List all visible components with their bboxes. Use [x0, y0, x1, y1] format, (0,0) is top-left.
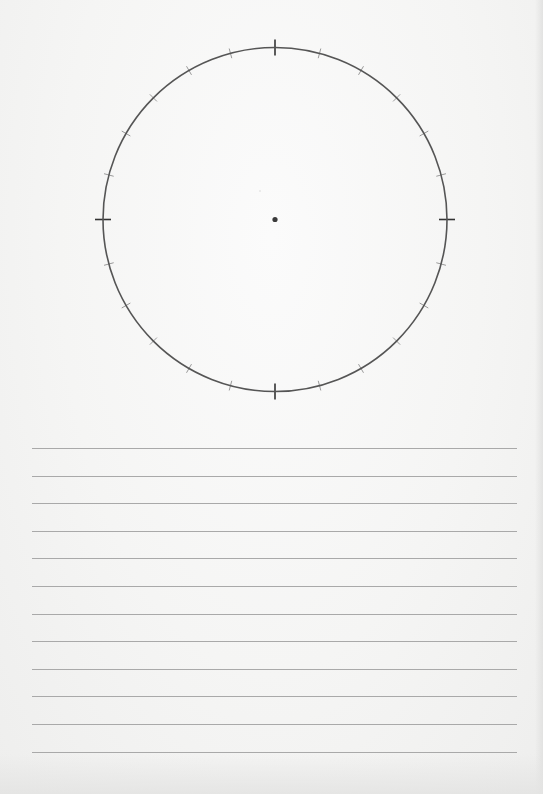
writing-line [32, 614, 517, 615]
writing-lines-area [32, 0, 517, 794]
writing-line [32, 724, 517, 725]
writing-line [32, 558, 517, 559]
writing-line [32, 641, 517, 642]
writing-line [32, 448, 517, 449]
writing-line [32, 503, 517, 504]
writing-line [32, 752, 517, 753]
writing-line [32, 669, 517, 670]
writing-line [32, 586, 517, 587]
writing-line [32, 476, 517, 477]
writing-line [32, 696, 517, 697]
writing-line [32, 531, 517, 532]
